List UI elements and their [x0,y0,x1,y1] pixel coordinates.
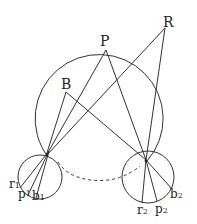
label-p1: p1 [18,187,31,201]
left-focus-point [46,154,49,157]
right-small-circle [122,151,174,203]
right-focus-point [145,160,148,163]
line-B-to-left [46,92,66,156]
label-b2: b2 [170,187,183,201]
dashed-connection-arc [58,162,140,181]
line-P-to-left [46,50,106,156]
ray-r2 [142,160,146,203]
label-r2: r2 [137,203,148,217]
label-B: B [61,76,71,92]
label-p2: p2 [155,202,168,216]
label-R: R [163,14,174,30]
label-P: P [100,33,109,49]
line-R-to-right [146,28,165,160]
big-circle-arc [35,55,163,161]
label-b1: b1 [32,189,45,203]
optics-diagram: P R B r1 p1 b1 b2 r2 p2 [0,0,197,224]
